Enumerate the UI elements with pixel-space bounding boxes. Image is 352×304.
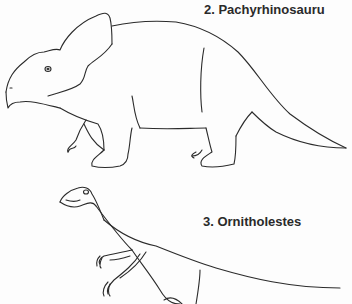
dinosaur-drawings [0,0,352,304]
illustration-page: 2. Pachyrhinosauru 3. Ornitholestes [0,0,352,304]
pachyrhinosaurus-figure [6,13,346,167]
ornitholestes-figure [60,187,340,304]
